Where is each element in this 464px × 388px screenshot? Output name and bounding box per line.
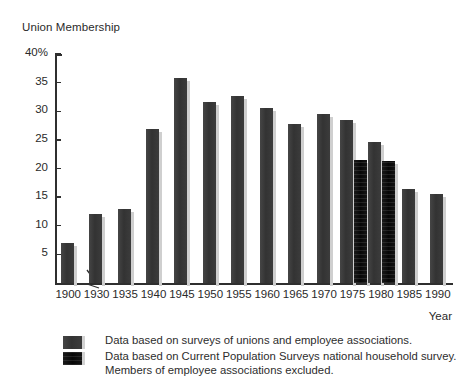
y-axis-tick-label: 35 xyxy=(4,75,48,87)
x-axis-tick-label-1970: 1970 xyxy=(311,288,337,300)
bar-face xyxy=(368,142,381,283)
chart-title: Union Membership xyxy=(22,21,120,33)
x-axis-tick-label-1900: 1900 xyxy=(55,288,81,300)
x-axis-tick-label-1940: 1940 xyxy=(141,288,167,300)
bar-shadow xyxy=(330,117,333,286)
x-axis-tick-label-1935: 1935 xyxy=(112,288,138,300)
bar-shadow xyxy=(131,212,134,286)
x-axis-tick-label-1950: 1950 xyxy=(198,288,224,300)
y-axis-tick-label: 10 xyxy=(4,218,48,230)
bar-1970-unions xyxy=(317,114,330,283)
legend-swatch-cps-shadow xyxy=(82,352,85,365)
bar-shadow xyxy=(443,197,446,286)
bar-face xyxy=(61,243,74,283)
y-axis-tick-label: 40% xyxy=(4,46,48,58)
bar-face xyxy=(382,161,395,283)
bar-face xyxy=(89,214,102,283)
bar-1960-unions xyxy=(260,108,273,283)
bar-shadow xyxy=(244,99,247,286)
bar-1965-unions xyxy=(288,124,301,283)
bar-shadow xyxy=(216,105,219,286)
bar-face xyxy=(203,102,216,283)
bar-1955-unions xyxy=(231,96,244,283)
bar-face xyxy=(146,129,159,283)
bar-face xyxy=(430,194,443,283)
legend-label-cps: Data based on Current Population Surveys… xyxy=(105,350,456,362)
bar-1935-unions xyxy=(118,209,131,283)
legend-label-unions: Data based on surveys of unions and empl… xyxy=(105,334,412,346)
bar-1975-cps xyxy=(354,160,367,283)
bar-1990-unions xyxy=(430,194,443,283)
legend-swatch-cps xyxy=(63,352,82,365)
y-axis-tick-label: 20 xyxy=(4,161,48,173)
bar-shadow xyxy=(74,246,77,286)
legend-swatch-unions-shadow xyxy=(82,336,85,349)
x-axis-title: Year xyxy=(429,310,452,322)
y-axis-tick-label: 25 xyxy=(4,132,48,144)
x-axis-tick-label-1930: 1930 xyxy=(84,288,110,300)
bar-face xyxy=(317,114,330,283)
union-membership-bar-chart: Union Membership 40%3530252015105 190019… xyxy=(0,0,464,388)
x-axis-tick-label-1990: 1990 xyxy=(425,288,451,300)
x-axis-tick-label-1960: 1960 xyxy=(254,288,280,300)
bar-shadow xyxy=(395,164,398,286)
y-axis-tick-label: 30 xyxy=(4,103,48,115)
bar-face xyxy=(402,189,415,283)
bar-1940-unions xyxy=(146,129,159,283)
x-axis-tick-label-1985: 1985 xyxy=(397,288,423,300)
bar-1985-unions xyxy=(402,189,415,283)
x-axis-tick-label-1965: 1965 xyxy=(283,288,309,300)
bar-face xyxy=(118,209,131,283)
bar-shadow xyxy=(102,217,105,286)
bar-face xyxy=(354,160,367,283)
x-axis-tick-label-1975: 1975 xyxy=(340,288,366,300)
bar-1945-unions xyxy=(174,78,187,283)
bar-1980-cps xyxy=(382,161,395,283)
bar-shadow xyxy=(415,192,418,286)
bar-face xyxy=(340,120,353,283)
legend-swatch-unions xyxy=(63,336,82,349)
bar-shadow xyxy=(301,127,304,286)
bar-shadow xyxy=(187,81,190,286)
y-axis-tick-label: 15 xyxy=(4,189,48,201)
bar-face xyxy=(288,124,301,283)
x-axis-tick-label-1945: 1945 xyxy=(169,288,195,300)
bar-1950-unions xyxy=(203,102,216,283)
y-axis-tick-label: 5 xyxy=(4,246,48,258)
bar-face xyxy=(231,96,244,283)
x-axis-tick-label-1955: 1955 xyxy=(226,288,252,300)
bar-face xyxy=(260,108,273,283)
bar-1980-unions xyxy=(368,142,381,283)
bar-1900-unions xyxy=(61,243,74,283)
plot-area xyxy=(55,54,453,283)
bar-1930-unions xyxy=(89,214,102,283)
bar-shadow xyxy=(273,111,276,286)
bar-1975-unions xyxy=(340,120,353,283)
legend-label-cps-note: Members of employee associations exclude… xyxy=(105,364,334,376)
bar-face xyxy=(174,78,187,283)
bar-shadow xyxy=(159,132,162,286)
x-axis-tick-label-1980: 1980 xyxy=(368,288,394,300)
x-axis-line xyxy=(55,283,453,285)
